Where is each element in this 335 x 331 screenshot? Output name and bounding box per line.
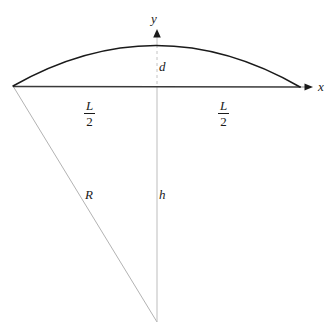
x-axis-arrowhead-icon — [305, 83, 314, 90]
half-chord-left-label: L 2 — [84, 99, 95, 128]
half-chord-right-numerator: L — [218, 99, 229, 113]
y-axis-label: y — [151, 12, 157, 25]
arc-geometry-diagram: y x d h R L 2 L 2 — [0, 0, 335, 331]
diagram-canvas — [0, 0, 335, 331]
chord-line — [13, 87, 301, 88]
half-chord-right-denominator: 2 — [218, 114, 229, 128]
mid-ordinate-label: d — [159, 60, 166, 73]
radius-label: R — [85, 188, 93, 201]
half-chord-right-label: L 2 — [218, 99, 229, 128]
half-chord-left-numerator: L — [84, 99, 95, 113]
height-label: h — [159, 188, 166, 201]
x-axis-label: x — [318, 80, 324, 93]
y-axis-arrowhead-icon — [153, 29, 161, 38]
half-chord-left-denominator: 2 — [84, 114, 95, 128]
